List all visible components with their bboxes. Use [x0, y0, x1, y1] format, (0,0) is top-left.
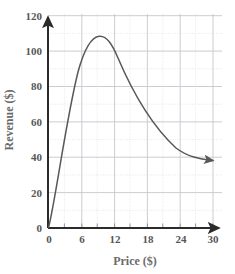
revenue-price-chart: 120 100 80 60 40 20 0 0 6 12 18 24 30 Pr… — [0, 0, 235, 274]
revenue-curve — [49, 36, 213, 227]
y-axis-title: Revenue ($) — [3, 90, 15, 151]
x-tick-label-24: 24 — [176, 234, 187, 245]
y-tick-label-20: 20 — [6, 188, 42, 199]
y-tick-label-40: 40 — [6, 152, 42, 163]
x-tick-label-18: 18 — [143, 234, 154, 245]
x-tick-label-12: 12 — [110, 234, 121, 245]
minor-gridlines-vertical — [64, 14, 195, 228]
x-tick-label-0: 0 — [46, 234, 52, 245]
x-tick-label-6: 6 — [79, 234, 85, 245]
y-tick-label-120: 120 — [6, 11, 42, 22]
x-tick-label-30: 30 — [208, 234, 219, 245]
major-gridlines-vertical — [82, 14, 213, 228]
x-axis-title: Price ($) — [113, 255, 157, 267]
y-tick-label-100: 100 — [6, 46, 42, 57]
y-tick-label-0: 0 — [6, 223, 42, 234]
